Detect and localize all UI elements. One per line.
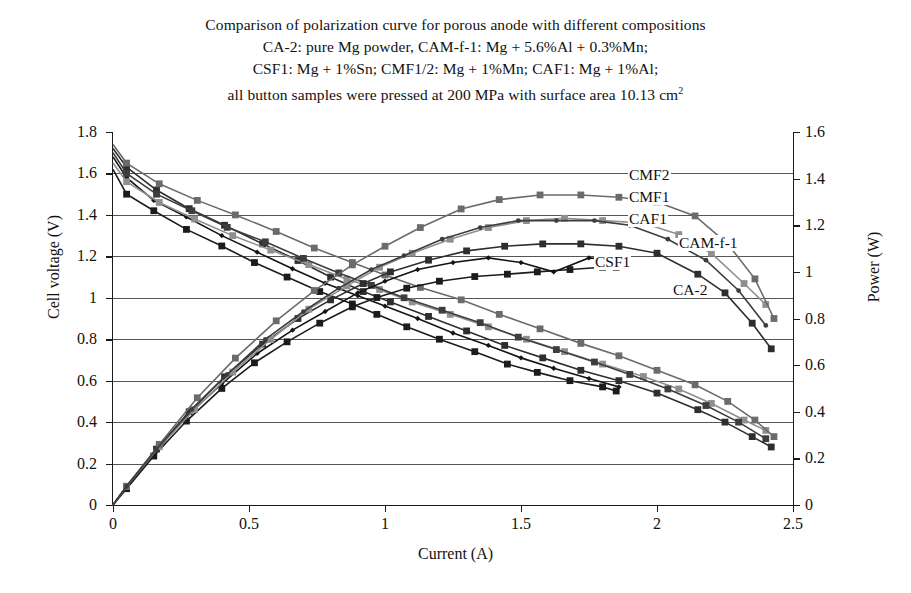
- data-point: [626, 371, 633, 378]
- data-point: [586, 255, 591, 260]
- data-point: [704, 258, 709, 263]
- title-line-2: CA-2: pure Mg powder, CAM-f-1: Mg + 5.6%…: [0, 36, 911, 58]
- y-right-tick: [794, 505, 800, 506]
- data-point: [156, 180, 163, 187]
- data-point: [425, 257, 432, 264]
- y-right-tick: [794, 225, 800, 226]
- y-right-tick: [794, 365, 800, 366]
- data-point: [336, 286, 341, 291]
- x-axis-label: Current (A): [0, 545, 911, 563]
- y-left-tick-label: 1: [27, 290, 97, 306]
- y-right-tick-label: 0.6: [805, 357, 875, 373]
- y-right-tick: [794, 179, 800, 180]
- series-caf1: [113, 218, 768, 505]
- data-point: [539, 241, 546, 248]
- data-point: [654, 250, 661, 257]
- data-point: [577, 192, 584, 199]
- data-point: [263, 337, 268, 342]
- y-right-tick-label: 1.6: [805, 124, 875, 140]
- data-point: [273, 317, 280, 324]
- y-left-tick-label: 0: [27, 497, 97, 513]
- y-left-tick-label: 1.6: [27, 165, 97, 181]
- x-axis-line: [112, 505, 794, 506]
- series-cam-f-1: [113, 149, 775, 451]
- data-point: [518, 260, 523, 265]
- data-point: [123, 191, 130, 198]
- data-point: [290, 266, 295, 271]
- data-point: [741, 280, 748, 287]
- data-point: [504, 361, 511, 368]
- data-point: [369, 267, 374, 272]
- data-point: [463, 247, 470, 254]
- data-point: [382, 303, 387, 308]
- x-tick: [385, 506, 386, 512]
- title-superscript: 2: [678, 85, 683, 96]
- data-point: [486, 343, 491, 348]
- data-point: [477, 319, 484, 326]
- data-point: [262, 238, 269, 245]
- series-cmf1: [113, 215, 769, 505]
- data-point: [311, 287, 318, 294]
- data-point: [229, 232, 236, 239]
- y-right-tick-label: 0: [805, 497, 875, 513]
- data-point: [403, 323, 410, 330]
- data-point: [232, 355, 239, 362]
- data-point: [654, 367, 661, 374]
- y-right-tick-label: 1.4: [805, 171, 875, 187]
- data-point: [694, 271, 701, 278]
- data-point: [273, 228, 280, 235]
- series-label-cmf2: CMF2: [628, 167, 671, 183]
- data-point: [224, 224, 231, 231]
- x-tick-label: 1: [355, 516, 415, 532]
- data-point: [504, 271, 511, 278]
- data-point: [123, 160, 130, 167]
- series-line: [113, 267, 616, 505]
- y-right-tick-label: 1.2: [805, 217, 875, 233]
- data-point: [450, 260, 455, 265]
- data-point: [763, 323, 768, 328]
- data-point: [486, 255, 491, 260]
- data-point: [154, 447, 159, 452]
- data-point: [382, 279, 387, 284]
- data-point: [675, 386, 682, 393]
- data-point: [539, 354, 546, 361]
- data-point: [188, 207, 195, 214]
- data-point: [255, 250, 260, 255]
- y-right-tick: [794, 458, 800, 459]
- title-line-3: CSF1: Mg + 1%Sn; CMF1/2: Mg + 1%Mn; CAF1…: [0, 58, 911, 80]
- curve-layer: [113, 132, 793, 505]
- y-right-tick-label: 1: [805, 264, 875, 280]
- x-tick: [521, 506, 522, 512]
- y-left-tick-label: 0.6: [27, 373, 97, 389]
- data-point: [736, 288, 741, 293]
- data-point: [267, 247, 274, 254]
- data-point: [724, 398, 731, 405]
- y-left-tick: [106, 215, 112, 216]
- y-right-tick: [794, 319, 800, 320]
- series-line: [113, 221, 766, 505]
- data-point: [501, 342, 508, 349]
- data-point: [616, 243, 623, 250]
- x-tick-label: 2: [627, 516, 687, 532]
- data-point: [496, 196, 503, 203]
- data-point: [191, 216, 198, 223]
- series-line: [113, 218, 766, 505]
- y-right-tick: [794, 132, 800, 133]
- data-point: [218, 243, 225, 250]
- data-point: [415, 316, 420, 321]
- data-point: [387, 268, 394, 275]
- series-label-cam-f-1: CAM-f-1: [678, 235, 739, 251]
- data-point: [735, 419, 742, 426]
- data-point: [417, 224, 424, 231]
- title-line-4-text: all button samples were pressed at 200 M…: [228, 86, 679, 103]
- chart-figure: Comparison of polarization curve for por…: [0, 0, 911, 593]
- x-tick-label: 2.5: [763, 516, 823, 532]
- data-point: [692, 213, 699, 220]
- x-tick-label: 0: [83, 516, 143, 532]
- y-left-tick: [106, 464, 112, 465]
- data-point: [471, 348, 478, 355]
- x-tick: [657, 506, 658, 512]
- data-point: [567, 377, 574, 384]
- data-point: [534, 268, 541, 275]
- data-point: [577, 367, 584, 374]
